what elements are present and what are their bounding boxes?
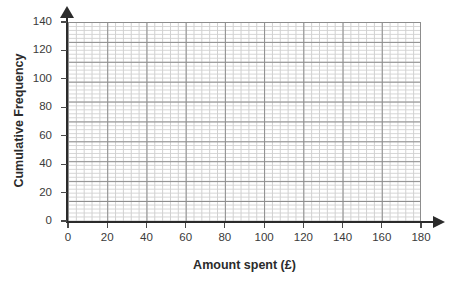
y-axis-tick-label: 0 — [46, 215, 52, 227]
x-axis-tick-label: 0 — [65, 232, 71, 244]
grid-top-edge — [68, 22, 421, 23]
y-axis-tick — [61, 107, 67, 108]
y-axis-tick — [61, 220, 67, 221]
x-axis-arrow-icon — [433, 216, 445, 228]
x-axis-tick — [67, 223, 68, 228]
y-axis-tick-label: 100 — [33, 73, 52, 85]
y-axis-tick-label: 40 — [39, 158, 52, 170]
y-axis-tick — [61, 164, 67, 165]
x-axis-tick — [107, 223, 108, 228]
y-axis-tick — [61, 135, 67, 136]
y-axis-arrow-icon — [60, 6, 74, 18]
grid-right-edge — [420, 22, 421, 221]
y-axis-tick-label: 20 — [39, 187, 52, 199]
x-axis-tick-label: 100 — [255, 232, 274, 244]
y-axis-tick — [61, 192, 67, 193]
y-axis-tick-label: 140 — [33, 16, 52, 28]
x-axis-tick-label: 80 — [218, 232, 231, 244]
x-axis-tick — [303, 223, 304, 228]
x-axis-tick — [342, 223, 343, 228]
x-axis-line — [66, 221, 434, 223]
y-axis-tick — [61, 50, 67, 51]
x-axis-tick-label: 40 — [140, 232, 153, 244]
y-axis-tick-label: 80 — [39, 101, 52, 113]
x-axis-tick — [264, 223, 265, 228]
y-axis-tick-label: 120 — [33, 44, 52, 56]
x-axis-title: Amount spent (£) — [68, 258, 421, 272]
y-axis-tick-label: 60 — [39, 130, 52, 142]
x-axis-tick-label: 180 — [411, 232, 430, 244]
x-axis-tick-label: 160 — [372, 232, 391, 244]
y-axis-title: Cumulative Frequency — [8, 21, 30, 220]
x-axis-tick-label: 60 — [179, 232, 192, 244]
x-axis-tick — [420, 223, 421, 228]
x-axis-tick — [224, 223, 225, 228]
x-axis-tick — [381, 223, 382, 228]
plot-area — [68, 22, 421, 221]
y-axis-tick — [61, 78, 67, 79]
y-axis-tick — [61, 21, 67, 22]
cumulative-frequency-chart: 020406080100120140 020406080100120140160… — [0, 0, 463, 287]
x-axis-tick-label: 120 — [294, 232, 313, 244]
x-axis-tick — [146, 223, 147, 228]
x-axis-tick-label: 20 — [101, 232, 114, 244]
x-axis-tick-label: 140 — [333, 232, 352, 244]
x-axis-tick — [185, 223, 186, 228]
major-gridlines — [68, 22, 421, 221]
